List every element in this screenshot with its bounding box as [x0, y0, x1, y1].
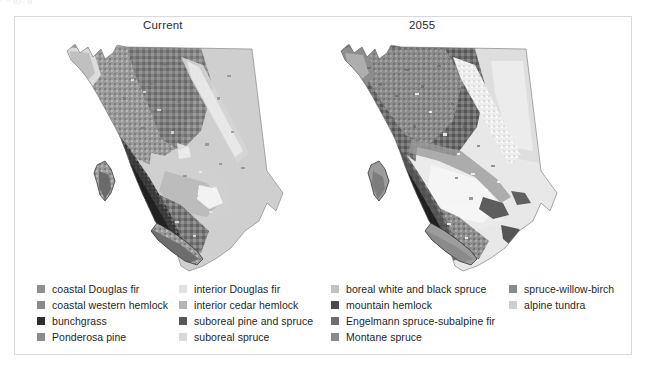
legend-item: alpine tundra	[509, 297, 639, 313]
legend: coastal Douglas fir coastal western heml…	[31, 281, 621, 353]
map-canvas-2055	[305, 35, 573, 275]
legend-label: interior Douglas fir	[194, 283, 280, 295]
legend-column-2: interior Douglas fir interior cedar heml…	[179, 281, 339, 345]
map-title-2055: 2055	[305, 19, 649, 31]
legend-swatch-suboreal-pine-and-spruce	[179, 317, 187, 325]
legend-item: Ponderosa pine	[37, 329, 187, 345]
legend-swatch-boreal-white-and-black-spruce	[331, 285, 339, 293]
legend-label: alpine tundra	[524, 299, 585, 311]
map-panel-2055: 2055	[305, 19, 573, 277]
legend-label: boreal white and black spruce	[346, 283, 486, 295]
clipped-top-text: r k gy, g	[0, 0, 649, 4]
legend-swatch-engelmann-spruce-subalpine-fir	[331, 317, 339, 325]
legend-item: spruce-willow-birch	[509, 281, 639, 297]
legend-item: boreal white and black spruce	[331, 281, 521, 297]
legend-column-3: boreal white and black spruce mountain h…	[331, 281, 521, 345]
legend-label: Ponderosa pine	[52, 331, 126, 343]
legend-swatch-mountain-hemlock	[331, 301, 339, 309]
legend-label: suboreal pine and spruce	[194, 315, 313, 327]
legend-swatch-suboreal-spruce	[179, 333, 187, 341]
map-panel-current: Current	[31, 19, 299, 277]
legend-swatch-coastal-douglas-fir	[37, 285, 45, 293]
legend-swatch-coastal-western-hemlock	[37, 301, 45, 309]
legend-item: interior Douglas fir	[179, 281, 339, 297]
legend-item: Montane spruce	[331, 329, 521, 345]
figure-frame: Current	[14, 16, 632, 355]
legend-item: Engelmann spruce-subalpine fir	[331, 313, 521, 329]
legend-label: Montane spruce	[346, 331, 422, 343]
legend-swatch-montane-spruce	[331, 333, 339, 341]
legend-label: coastal western hemlock	[52, 299, 168, 311]
legend-label: mountain hemlock	[346, 299, 432, 311]
legend-item: suboreal pine and spruce	[179, 313, 339, 329]
legend-swatch-ponderosa-pine	[37, 333, 45, 341]
legend-item: coastal Douglas fir	[37, 281, 187, 297]
legend-column-1: coastal Douglas fir coastal western heml…	[37, 281, 187, 345]
legend-item: suboreal spruce	[179, 329, 339, 345]
legend-swatch-bunchgrass	[37, 317, 45, 325]
legend-swatch-spruce-willow-birch	[509, 285, 517, 293]
map-canvas-current	[31, 35, 299, 275]
legend-item: coastal western hemlock	[37, 297, 187, 313]
legend-label: suboreal spruce	[194, 331, 269, 343]
legend-label: Engelmann spruce-subalpine fir	[346, 315, 495, 327]
legend-swatch-interior-cedar-hemlock	[179, 301, 187, 309]
legend-item: interior cedar hemlock	[179, 297, 339, 313]
legend-column-4: spruce-willow-birch alpine tundra	[509, 281, 639, 313]
legend-swatch-alpine-tundra	[509, 301, 517, 309]
legend-label: bunchgrass	[52, 315, 107, 327]
legend-swatch-interior-douglas-fir	[179, 285, 187, 293]
legend-label: coastal Douglas fir	[52, 283, 139, 295]
legend-item: mountain hemlock	[331, 297, 521, 313]
legend-item: bunchgrass	[37, 313, 187, 329]
legend-label: interior cedar hemlock	[194, 299, 298, 311]
legend-label: spruce-willow-birch	[524, 283, 614, 295]
